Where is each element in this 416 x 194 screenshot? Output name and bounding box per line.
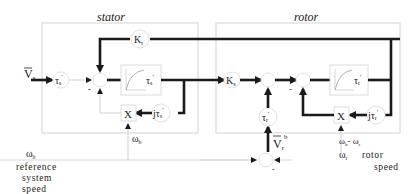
reference-line3: speed	[22, 184, 47, 194]
rotor-lag-block: τr'	[330, 65, 368, 95]
reference-line2: system	[22, 173, 52, 183]
rotor-speed-omega-r: ωr	[339, 149, 348, 161]
rotor-jtau-r: jτr'	[367, 106, 385, 124]
stator-title: stator	[97, 10, 125, 24]
svg-text:X: X	[337, 110, 345, 122]
omega-b-label: ωb	[132, 133, 142, 145]
rotor-multiplier-to-sum2	[303, 89, 334, 115]
stator-jtau-s: jτs'	[152, 104, 170, 122]
reference-omega-b: ωb	[26, 148, 36, 160]
svg-text:X: X	[124, 108, 132, 120]
reference-line1: reference	[16, 162, 57, 172]
induction-machine-block-diagram: stator rotor Vs τs' - Kr τs' jτs' X	[0, 0, 416, 194]
rotor-summing-junction-1	[261, 73, 275, 87]
rotor-speed-line2: speed	[374, 162, 399, 172]
rotor-input-label: Vrb	[273, 133, 288, 152]
rotor-summing-junction-2	[296, 73, 310, 87]
ks-gain: Ks	[224, 72, 240, 88]
stator-multiplier: X	[121, 105, 136, 121]
svg-text:jτs': jτs'	[152, 106, 163, 119]
rotor-speed-line1: rotor	[362, 150, 384, 160]
stator-gain-tau-s: τs'	[53, 72, 69, 88]
rotor-minus-sign: -	[289, 84, 292, 94]
kr-gain: Kr	[131, 30, 149, 48]
stator-lag-block: τs'	[121, 65, 161, 95]
rotor-title: rotor	[294, 10, 319, 24]
slip-speed-label: ωb- ωr	[339, 136, 361, 147]
rotor-multiplier: X	[334, 107, 349, 123]
stator-multiplier-to-sum	[100, 89, 121, 113]
rotor-output-bus	[385, 39, 391, 115]
rotor-gain-tau-r: τr'	[259, 108, 277, 126]
stator-summing-junction	[93, 73, 107, 87]
stator-minus-sign: -	[88, 84, 91, 94]
svg-text:jτr': jτr'	[367, 108, 378, 121]
stator-feedback-down	[178, 80, 184, 113]
slip-summing-junction	[259, 153, 273, 167]
slip-minus-sign: -	[272, 165, 275, 174]
